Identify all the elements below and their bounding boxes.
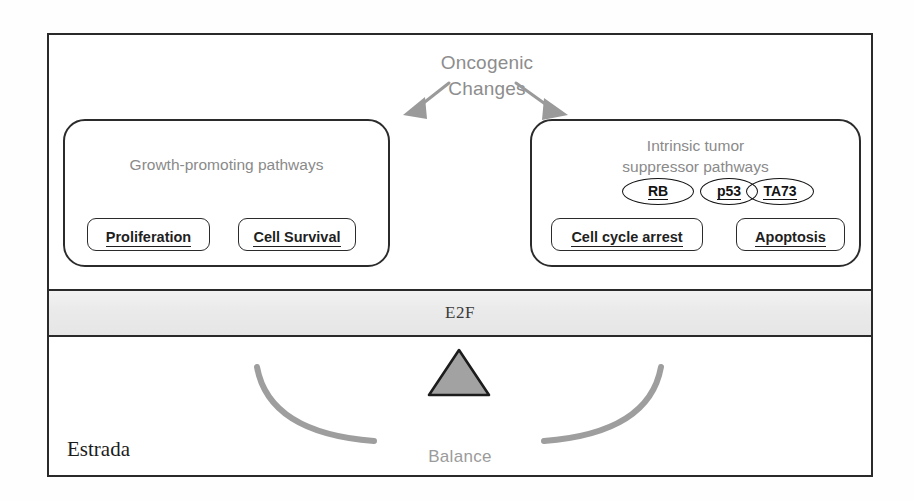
apoptosis-box: Apoptosis (736, 218, 845, 251)
proliferation-box: Proliferation (87, 218, 210, 251)
cell-cycle-arrest-label: Cell cycle arrest (571, 229, 682, 247)
tumor-suppressor-title-line1: Intrinsic tumor (532, 135, 859, 156)
oncogenic-changes-line1: Oncogenic (397, 50, 577, 76)
gene-ellipse-ta73: TA73 (746, 178, 814, 205)
cell-cycle-arrest-box: Cell cycle arrest (551, 218, 703, 251)
figure-root: Oncogenic Changes Growth-promoting pathw… (0, 0, 914, 501)
growth-promoting-pathways-box: Growth-promoting pathways Proliferation … (63, 119, 390, 267)
triangle-fulcrum-icon (429, 350, 489, 395)
balance-arc-left (257, 367, 374, 441)
tumor-suppressor-title-line2: suppressor pathways (532, 156, 859, 177)
gene-label-rb: RB (648, 184, 668, 200)
e2f-band: E2F (49, 289, 871, 337)
diagram-outer-frame: Oncogenic Changes Growth-promoting pathw… (47, 33, 873, 477)
cell-survival-box: Cell Survival (238, 218, 356, 251)
balance-scale-graphic (199, 345, 719, 455)
oncogenic-changes-line2: Changes (397, 76, 577, 102)
e2f-label: E2F (445, 303, 475, 323)
pathways-section: Oncogenic Changes Growth-promoting pathw… (49, 35, 871, 290)
proliferation-label: Proliferation (106, 229, 191, 247)
gene-label-p53: p53 (717, 184, 741, 200)
intrinsic-tumor-suppressor-pathways-box: Intrinsic tumor suppressor pathways RB p… (530, 119, 861, 267)
oncogenic-changes-label: Oncogenic Changes (397, 50, 577, 102)
growth-promoting-pathways-title: Growth-promoting pathways (65, 154, 388, 175)
balance-section: Balance (49, 337, 871, 475)
balance-label: Balance (49, 447, 871, 467)
author-credit: Estrada (67, 437, 130, 462)
gene-label-ta73: TA73 (763, 184, 796, 200)
cell-survival-label: Cell Survival (253, 229, 340, 247)
balance-arc-right (544, 367, 661, 441)
apoptosis-label: Apoptosis (755, 229, 826, 247)
intrinsic-tumor-suppressor-pathways-title: Intrinsic tumor suppressor pathways (532, 135, 859, 177)
gene-ellipse-rb: RB (622, 178, 694, 205)
